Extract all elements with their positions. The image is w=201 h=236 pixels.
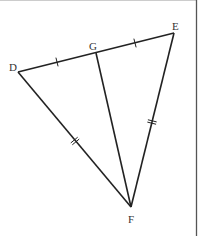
triangle-diagram: D E G F [0, 0, 201, 236]
vertex-label-g: G [89, 40, 97, 52]
segment-gf [96, 53, 131, 207]
segment-ef [131, 33, 174, 207]
diagram-frame: D E G F [0, 0, 201, 236]
tick-marks-group [56, 39, 157, 145]
vertex-label-d: D [9, 61, 17, 73]
vertex-label-e: E [172, 20, 179, 32]
vertex-label-f: F [128, 213, 134, 225]
segment-de [18, 33, 174, 72]
